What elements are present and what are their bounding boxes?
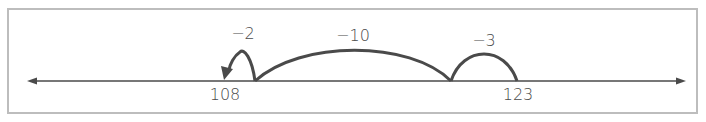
jump-arc-minus-10 xyxy=(255,50,451,81)
jump-label-minus-3: −3 xyxy=(472,31,496,50)
jump-arc-minus-3 xyxy=(451,54,517,81)
left-arrow-icon xyxy=(27,78,37,85)
point-label-108: 108 xyxy=(210,85,241,104)
jump-label-minus-2: −2 xyxy=(231,24,255,43)
jump-label-minus-10: −10 xyxy=(336,26,370,45)
number-line-diagram: −2 −10 −3 108 123 xyxy=(0,0,706,122)
right-arrow-icon xyxy=(676,78,686,85)
point-label-123: 123 xyxy=(503,85,534,104)
number-line xyxy=(27,78,686,85)
jump-arrowhead-icon xyxy=(221,66,233,80)
jump-arc-minus-2 xyxy=(229,51,255,81)
